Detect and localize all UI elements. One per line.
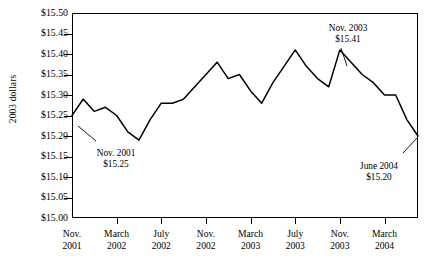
annotation-value: $15.41	[329, 34, 368, 45]
annotation-nov-2001: Nov. 2001$15.25	[97, 148, 136, 170]
annotation-date: June 2004	[360, 161, 398, 172]
annotation-nov-2003: Nov. 2003$15.41	[329, 23, 368, 45]
annotation-leader-june-2004	[403, 138, 417, 153]
annotation-value: $15.20	[360, 172, 398, 183]
annotation-date: Nov. 2003	[329, 23, 368, 34]
annotation-leader-lines	[78, 48, 417, 153]
data-series-line	[72, 50, 418, 140]
annotation-value: $15.25	[97, 159, 136, 170]
annotation-date: Nov. 2001	[97, 148, 136, 159]
annotation-leader-nov-2001	[78, 126, 96, 141]
chart-figure: 2003 dollars $15.50$15.45$15.40$15.35$15…	[0, 0, 428, 267]
annotation-june-2004: June 2004$15.20	[360, 161, 398, 183]
